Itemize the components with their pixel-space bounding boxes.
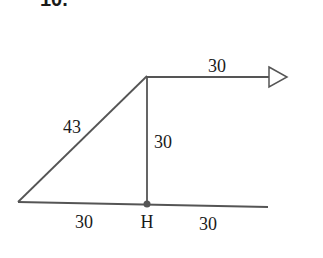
diagram-canvas: 10. 30 43 30 30 H 30 bbox=[0, 0, 323, 258]
arrowhead-icon bbox=[269, 67, 287, 87]
base-line bbox=[18, 202, 268, 207]
vertical-length-label: 30 bbox=[154, 132, 172, 152]
point-h-dot bbox=[144, 201, 151, 208]
problem-number: 10. bbox=[40, 0, 68, 10]
base-left-length-label: 30 bbox=[75, 212, 93, 232]
arrow-length-label: 30 bbox=[208, 56, 226, 76]
point-h-label: H bbox=[141, 212, 154, 232]
hypotenuse-line bbox=[18, 76, 147, 202]
hypotenuse-length-label: 43 bbox=[63, 117, 81, 137]
base-right-length-label: 30 bbox=[199, 214, 217, 234]
